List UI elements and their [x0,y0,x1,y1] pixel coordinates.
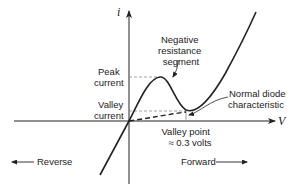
current-axis-label: i [117,5,120,19]
peak-current-label: Peak current [94,66,124,88]
tunnel-diode-iv-diagram: i V Peak current Valley current Negative… [0,0,290,188]
forward-label: Forward [181,156,216,167]
reverse-label: Reverse [37,156,72,167]
valley-point-label: Valley point ≈ 0.3 volts [161,126,212,148]
valley-current-label: Valley current [94,99,126,121]
negative-resistance-label: Negative resistance segment [158,34,204,67]
normal-diode-pointer [189,97,228,115]
normal-diode-curve [129,112,186,121]
normal-diode-label: Normal diode characteristic [228,88,288,110]
voltage-axis-label: V [278,114,287,128]
